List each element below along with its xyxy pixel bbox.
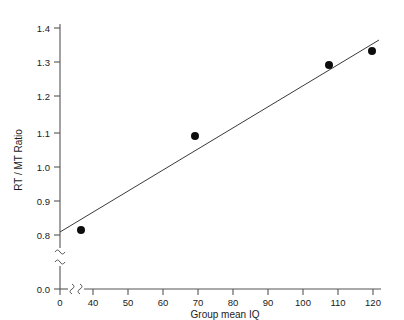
regression-line: [60, 40, 379, 232]
data-point: [368, 47, 376, 55]
y-tick-label: 1.4: [37, 23, 50, 34]
x-tick-label: 60: [158, 297, 169, 308]
y-tick-label: 0.8: [37, 230, 50, 241]
x-tick-label: 110: [330, 297, 345, 308]
x-axis-title: Group mean IQ: [191, 309, 260, 320]
y-axis-break-icon: [55, 250, 65, 264]
y-tick-label: 1.3: [37, 57, 50, 68]
x-tick-label: 120: [365, 297, 381, 308]
x-tick-label: 90: [263, 297, 274, 308]
scatter-plot: 1.4 1.3 1.2 1.1 1.0 0.9 0.8 0.0 0 40 50 …: [0, 0, 404, 320]
data-point: [325, 61, 333, 69]
y-tick-label: 1.2: [37, 91, 50, 102]
data-point: [77, 226, 85, 234]
x-axis-break-icon: [70, 284, 82, 294]
y-tick-label: 1.0: [37, 162, 50, 173]
data-point: [191, 132, 199, 140]
y-axis-title: RT / MT Ratio: [13, 129, 24, 191]
x-tick-label: 40: [88, 297, 99, 308]
x-tick-label: 70: [193, 297, 204, 308]
y-tick-label: 0.0: [37, 284, 50, 295]
y-tick-label: 0.9: [37, 196, 50, 207]
x-tick-label: 50: [123, 297, 134, 308]
y-tick-label: 1.1: [37, 128, 50, 139]
x-tick-label: 80: [228, 297, 239, 308]
x-tick-label: 100: [295, 297, 311, 308]
chart-figure: 1.4 1.3 1.2 1.1 1.0 0.9 0.8 0.0 0 40 50 …: [0, 0, 404, 320]
x-tick-label: 0: [57, 297, 62, 308]
